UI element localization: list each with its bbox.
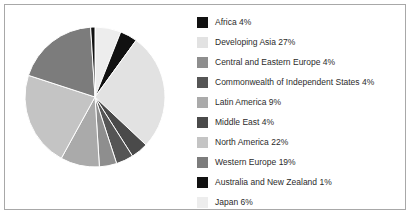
legend-item: Australia and New Zealand 1% xyxy=(197,176,332,189)
legend-swatch xyxy=(197,157,208,168)
legend-label: Commonwealth of Independent States 4% xyxy=(215,77,374,88)
legend-swatch xyxy=(197,197,208,208)
legend-swatch xyxy=(197,17,208,28)
legend-swatch xyxy=(197,37,208,48)
legend-label: Japan 6% xyxy=(215,197,253,208)
legend-swatch xyxy=(197,77,208,88)
chart-legend: Africa 4% Developing Asia 27% Central an… xyxy=(191,10,405,206)
legend-item: Latin America 9% xyxy=(197,96,281,109)
legend-label: Africa 4% xyxy=(215,17,251,28)
legend-label: North America 22% xyxy=(215,137,288,148)
legend-swatch xyxy=(197,57,208,68)
legend-label: Middle East 4% xyxy=(215,117,274,128)
legend-item: Commonwealth of Independent States 4% xyxy=(197,76,374,89)
legend-item: Developing Asia 27% xyxy=(197,36,295,49)
legend-label: Latin America 9% xyxy=(215,97,281,108)
legend-swatch xyxy=(197,137,208,148)
legend-label: Western Europe 19% xyxy=(215,157,296,168)
legend-label: Central and Eastern Europe 4% xyxy=(215,57,335,68)
legend-item: Western Europe 19% xyxy=(197,156,296,169)
legend-label: Developing Asia 27% xyxy=(215,37,295,48)
legend-item: Japan 6% xyxy=(197,196,253,209)
pie-chart-area xyxy=(5,5,195,211)
legend-item: North America 22% xyxy=(197,136,288,149)
legend-swatch xyxy=(197,117,208,128)
legend-item: Central and Eastern Europe 4% xyxy=(197,56,335,69)
legend-item: Africa 4% xyxy=(197,16,251,29)
pie-chart xyxy=(15,15,185,195)
chart-frame: Africa 4% Developing Asia 27% Central an… xyxy=(4,4,406,210)
legend-swatch xyxy=(197,97,208,108)
legend-label: Australia and New Zealand 1% xyxy=(215,177,332,188)
legend-swatch xyxy=(197,177,208,188)
legend-item: Middle East 4% xyxy=(197,116,274,129)
